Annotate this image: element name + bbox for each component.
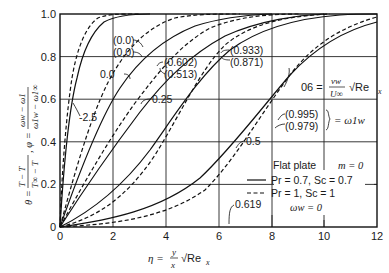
legend-title: Flat plate — [273, 159, 316, 171]
y-axis-label: θ = T − T T∞ − T , φ = ωw − ω1 ω1w − ω1∞ — [17, 84, 40, 205]
annotation-0.871: (0.871) — [230, 56, 263, 68]
svg-text:U∞: U∞ — [330, 89, 343, 99]
svg-text:x: x — [377, 87, 382, 96]
annotation-0.933: (0.933) — [230, 44, 263, 56]
annotation-0.602: (0.602) — [164, 56, 197, 68]
omega-1w-label: = ω1w — [334, 114, 365, 126]
svg-text:0.4: 0.4 — [41, 136, 56, 148]
annotation-0.619: 0.619 — [235, 198, 261, 210]
annotation-0.979: (0.979) — [285, 120, 318, 132]
svg-text:06 =: 06 = — [301, 81, 323, 93]
svg-text:T − T: T − T — [17, 166, 27, 187]
svg-text:0: 0 — [57, 230, 63, 242]
svg-text:4: 4 — [163, 230, 169, 242]
annotation-0.0-paren-a: (0.0) — [113, 34, 135, 46]
annotation-0.0-paren-b: (0.0) — [113, 46, 135, 58]
svg-text:T∞ − T: T∞ − T — [30, 160, 40, 188]
svg-text:θ =: θ = — [23, 190, 34, 205]
svg-text:0.6: 0.6 — [41, 93, 56, 105]
annotation-0.995: (0.995) — [285, 108, 318, 120]
svg-text:0: 0 — [50, 221, 56, 233]
svg-text:6: 6 — [216, 230, 222, 242]
annotation-m2.5: -2.5 — [79, 111, 97, 123]
annotation-0.0: 0.0 — [100, 68, 115, 80]
annotation-0.513: (0.513) — [164, 68, 197, 80]
svg-text:10: 10 — [318, 230, 330, 242]
parameter-label: 06 = vw U∞ √Re x — [301, 76, 382, 99]
svg-text:ωw − ω1: ωw − ω1 — [17, 93, 27, 127]
svg-text:√Re: √Re — [349, 81, 369, 93]
svg-text:0.8: 0.8 — [41, 51, 56, 63]
svg-text:0.2: 0.2 — [41, 178, 56, 190]
svg-text:vw: vw — [331, 76, 341, 86]
x-axis-ticks: 0 2 4 6 8 10 12 — [57, 230, 383, 242]
svg-text:8: 8 — [269, 230, 275, 242]
svg-text:x: x — [205, 258, 210, 267]
svg-text:2: 2 — [110, 230, 116, 242]
legend-dashed-label: Pr = 1, Sc = 1 — [271, 187, 335, 199]
omega-brace: = ω1w — [326, 110, 365, 130]
svg-text:12: 12 — [371, 230, 383, 242]
svg-text:, φ =: , φ = — [23, 132, 34, 153]
svg-text:x: x — [170, 260, 175, 270]
svg-text:y: y — [171, 247, 176, 257]
curve-m2.5-solid — [60, 14, 150, 227]
x-axis-label: η = y x √Re x — [148, 247, 210, 270]
legend-param: m = 0 — [338, 160, 364, 171]
svg-text:1.0: 1.0 — [41, 8, 56, 20]
annotation-0.25: 0.25 — [152, 93, 173, 105]
legend-solid-label: Pr = 0.7, Sc = 0.7 — [271, 174, 353, 186]
legend-condition: ωw = 0 — [290, 202, 323, 213]
svg-text:ω1w − ω1∞: ω1w − ω1∞ — [30, 84, 40, 129]
annotation-0.5: 0.5 — [246, 135, 261, 147]
boundary-layer-profile-chart: -2.5 (0.0) (0.0) 0.0 (0.602) (0.513) 0.2… — [0, 0, 389, 273]
svg-text:η =: η = — [148, 252, 164, 264]
svg-text:√Re: √Re — [181, 252, 201, 264]
y-axis-ticks: 0 0.2 0.4 0.6 0.8 1.0 — [41, 8, 56, 233]
